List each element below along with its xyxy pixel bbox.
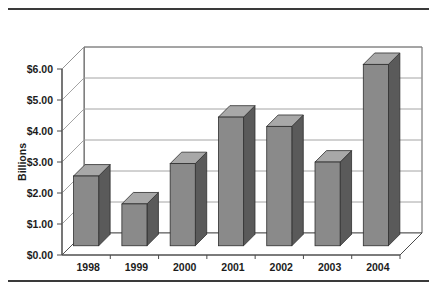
bar-2002: [267, 115, 304, 246]
x-axis-tick-label: 2001: [221, 261, 245, 273]
bar-2000: [170, 152, 207, 246]
y-axis-tick-label: $1.00: [27, 218, 53, 230]
bar-2004: [363, 53, 400, 246]
y-axis-tick-label: $0.00: [27, 249, 53, 261]
bar-chart: $0.00$1.00$2.00$3.00$4.00$5.00$6.00 1998…: [0, 12, 437, 280]
y-axis-tick-label: $6.00: [27, 63, 53, 75]
x-axis-tick-label: 2000: [173, 261, 197, 273]
y-axis-tick-label: $2.00: [27, 187, 53, 199]
chart-figure: $0.00$1.00$2.00$3.00$4.00$5.00$6.00 1998…: [0, 0, 437, 293]
y-axis-tick-label: $4.00: [27, 125, 53, 137]
x-axis-tick-label: 2003: [318, 261, 342, 273]
x-axis-tick-label: 2004: [366, 261, 390, 273]
x-axis-tick-label: 2002: [270, 261, 294, 273]
y-axis-tick-label: $5.00: [27, 94, 53, 106]
bar-1998: [74, 165, 111, 246]
x-axis-tick-labels: 1998199920002001200220032004: [76, 261, 389, 273]
y-axis-title: Billions: [16, 143, 28, 181]
x-axis-tick-label: 1999: [125, 261, 149, 273]
top-horizontal-rule: [8, 8, 429, 10]
y-axis-tick-labels: $0.00$1.00$2.00$3.00$4.00$5.00$6.00: [27, 63, 53, 261]
bar-2003: [315, 151, 352, 246]
y-axis-tick-label: $3.00: [27, 156, 53, 168]
bar-1999: [122, 192, 159, 245]
bar-2001: [218, 106, 255, 246]
bottom-horizontal-rule: [8, 280, 429, 282]
x-axis-tick-label: 1998: [76, 261, 100, 273]
